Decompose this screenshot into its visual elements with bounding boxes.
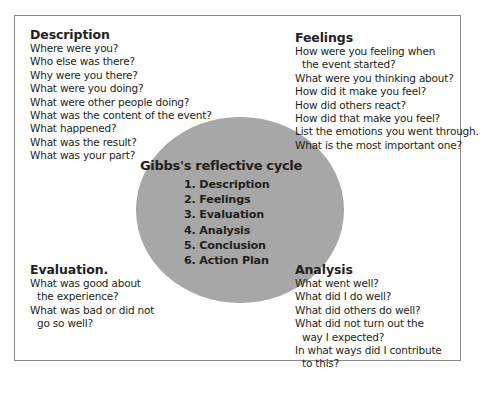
- question-line: the experience?: [30, 290, 154, 303]
- section-heading: Description: [30, 27, 212, 42]
- section-heading: Analysis: [295, 262, 442, 277]
- question-line: How did that make you feel?: [295, 112, 479, 125]
- question-line: What was good about: [30, 277, 154, 290]
- question-line: Why were you there?: [30, 69, 212, 82]
- question-line: How were you feeling when: [295, 45, 479, 58]
- question-line: What did not turn out the: [295, 317, 442, 330]
- question-line: What were other people doing?: [30, 96, 212, 109]
- stage-item: 6. Action Plan: [184, 253, 270, 268]
- question-line: What were you doing?: [30, 82, 212, 95]
- question-line: What happened?: [30, 122, 212, 135]
- question-line: go so well?: [30, 317, 154, 330]
- analysis-section: Analysis What went well? What did I do w…: [295, 262, 442, 371]
- description-section: Description Where were you? Who else was…: [30, 27, 212, 163]
- cycle-stage-list: 1. Description 2. Feelings 3. Evaluation…: [184, 177, 270, 268]
- stage-item: 4. Analysis: [184, 223, 270, 238]
- question-line: What was bad or did not: [30, 304, 154, 317]
- question-line: In what ways did I contribute: [295, 344, 442, 357]
- question-line: List the emotions you went through.: [295, 125, 479, 138]
- question-line: way I expected?: [295, 331, 442, 344]
- evaluation-section: Evaluation. What was good about the expe…: [30, 262, 154, 331]
- question-line: Who else was there?: [30, 55, 212, 68]
- section-heading: Evaluation.: [30, 262, 154, 277]
- question-line: How did it make you feel?: [295, 85, 479, 98]
- stage-item: 1. Description: [184, 177, 270, 192]
- question-line: What was your part?: [30, 149, 212, 162]
- question-line: What did others do well?: [295, 304, 442, 317]
- section-heading: Feelings: [295, 30, 479, 45]
- question-line: What is the most important one?: [295, 139, 479, 152]
- question-line: What were you thinking about?: [295, 72, 479, 85]
- question-line: the event started?: [295, 58, 479, 71]
- feelings-section: Feelings How were you feeling when the e…: [295, 30, 479, 152]
- stage-item: 5. Conclusion: [184, 238, 270, 253]
- question-line: Where were you?: [30, 42, 212, 55]
- question-line: What went well?: [295, 277, 442, 290]
- question-line: What was the content of the event?: [30, 109, 212, 122]
- question-line: to this?: [295, 357, 442, 370]
- question-line: What was the result?: [30, 136, 212, 149]
- question-line: What did I do well?: [295, 290, 442, 303]
- question-line: How did others react?: [295, 99, 479, 112]
- stage-item: 2. Feelings: [184, 192, 270, 207]
- stage-item: 3. Evaluation: [184, 207, 270, 222]
